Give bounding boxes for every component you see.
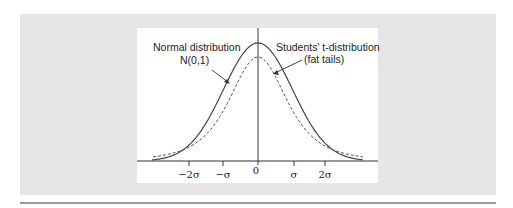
tick-label-p2: 2σ [318,169,331,180]
tick-label-m1: −σ [215,169,230,180]
tick-label-m2: −2σ [178,169,200,180]
t-arrowhead-icon [273,70,279,75]
t-label: Students' t-distribution [276,41,380,53]
distribution-chart: Normal distribution N(0,1) Students' t-d… [0,0,513,208]
t-sublabel: (fat tails) [304,53,344,65]
tick-label-p1: σ [291,169,298,180]
normal-sublabel: N(0,1) [180,54,209,66]
tick-label-0: 0 [253,165,259,176]
normal-label: Normal distribution [153,41,241,53]
